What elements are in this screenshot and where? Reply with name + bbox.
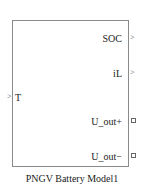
physical-port-uout-plus-icon[interactable] xyxy=(131,118,136,123)
port-label-il: iL xyxy=(113,68,122,80)
output-port-il-arrow-icon[interactable]: > xyxy=(130,69,135,77)
port-label-uout-minus: U_out− xyxy=(91,151,122,163)
output-port-soc-arrow-icon[interactable]: > xyxy=(130,34,135,42)
block-name-label[interactable]: PNGV Battery Model1 xyxy=(0,173,144,184)
pngv-battery-block[interactable]: SOC iL U_out+ U_out− T xyxy=(12,20,129,167)
port-label-uout-plus: U_out+ xyxy=(91,116,122,128)
physical-port-uout-minus-icon[interactable] xyxy=(131,153,136,158)
port-label-soc: SOC xyxy=(103,33,122,45)
port-label-t: T xyxy=(15,92,21,104)
input-port-t-arrow-icon[interactable]: > xyxy=(7,93,12,101)
